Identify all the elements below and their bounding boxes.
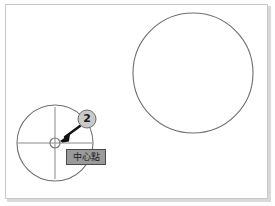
drawing-canvas	[0, 0, 275, 206]
right-circle	[133, 13, 253, 133]
pointer-arrow-icon	[60, 126, 80, 143]
osnap-tooltip: 中心點	[66, 149, 106, 165]
step-badge	[78, 110, 96, 128]
cad-snap-illustration: 2 中心點	[0, 0, 275, 206]
